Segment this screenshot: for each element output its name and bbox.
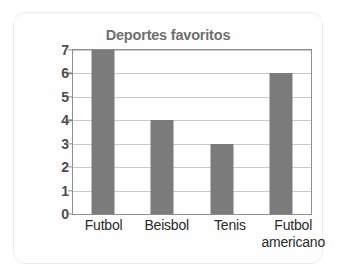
- bar-slot: [133, 50, 193, 214]
- y-tick-label: 0: [61, 207, 69, 221]
- y-tick-label: 6: [61, 66, 69, 80]
- x-tick-label: Futbol: [72, 217, 135, 251]
- bar: [151, 120, 174, 214]
- x-tick-label: Beisbol: [135, 217, 198, 251]
- bar: [270, 73, 293, 214]
- y-tick-label: 2: [61, 160, 69, 174]
- bar: [210, 144, 233, 214]
- bar-slot: [192, 50, 252, 214]
- bar-slot: [73, 50, 133, 214]
- gridline: [73, 214, 311, 215]
- plot-wrapper: 01234567: [59, 49, 312, 215]
- x-tick-label-line: Tenis: [214, 217, 246, 233]
- chart-card: Deportes favoritos Número de estudiantes…: [13, 12, 323, 264]
- bar-slot: [252, 50, 312, 214]
- y-tick-label: 3: [61, 137, 69, 151]
- x-tick-label: Tenis: [198, 217, 261, 251]
- x-tick-label-line: Futbol: [85, 217, 123, 233]
- y-tick-label: 4: [61, 113, 69, 127]
- x-tick-label-line: Beisbol: [144, 217, 189, 233]
- x-tick-label-line: americano: [261, 234, 325, 251]
- plot-area: 01234567: [72, 49, 312, 215]
- bar: [91, 50, 114, 214]
- y-tick-label: 7: [61, 43, 69, 57]
- chart-title: Deportes favoritos: [14, 27, 322, 43]
- bar-series: [73, 50, 311, 214]
- x-tick-label-line: Futbol: [274, 217, 312, 233]
- x-axis-labels: FutbolBeisbolTenisFutbolamericano: [72, 217, 325, 251]
- x-tick-label: Futbolamericano: [261, 217, 325, 251]
- y-tick-label: 1: [61, 184, 69, 198]
- y-tick-label: 5: [61, 90, 69, 104]
